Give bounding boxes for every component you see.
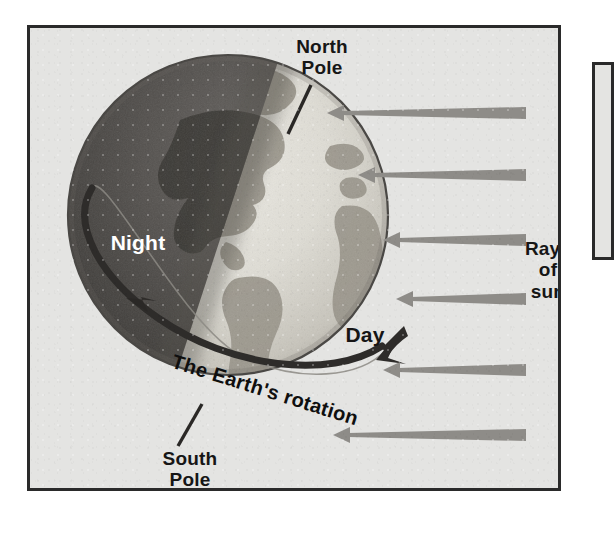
south-pole-leader-line bbox=[178, 404, 202, 446]
sun-ray-arrow bbox=[383, 362, 526, 378]
label-day: Day bbox=[328, 323, 402, 347]
label-south-pole: South Pole bbox=[130, 448, 250, 491]
sun-ray-arrow bbox=[396, 291, 526, 307]
sun-ray-arrow bbox=[383, 232, 526, 248]
label-rays-of-sun: Rays of sun bbox=[508, 238, 561, 302]
figure-frame: North Pole South Pole Rays of sun Night … bbox=[27, 25, 561, 491]
adjacent-figure-frame-edge bbox=[592, 62, 614, 260]
label-night: Night bbox=[90, 231, 186, 255]
label-north-pole: North Pole bbox=[262, 36, 382, 79]
earth-diagram bbox=[30, 28, 558, 488]
sun-ray-arrow bbox=[333, 427, 526, 443]
